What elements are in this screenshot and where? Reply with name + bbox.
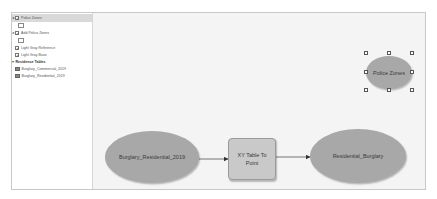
table-icon [15, 67, 20, 71]
selection-handle-sw[interactable] [364, 88, 368, 92]
selection-handle-w[interactable] [364, 70, 368, 74]
node-residential-burglary[interactable]: Residential_Burglary [310, 129, 406, 183]
layer-symbol-swatch [18, 38, 24, 43]
visibility-checkbox[interactable]: ✓ [15, 16, 19, 20]
layer-add-police-zones[interactable]: ◂ ✓ Add Police Zones [12, 29, 92, 37]
selection-handle-s[interactable] [387, 88, 391, 92]
node-burglary-residential-2019[interactable]: Burglary_Residential_2019 [105, 131, 199, 183]
contents-pane: ◂ ✓ Police Zones ◂ ✓ Add Police Zones ✓ … [12, 13, 93, 189]
table-burglary-residential-2019[interactable]: Burglary_Residential_2019 [12, 72, 92, 80]
selection-handle-e[interactable] [410, 70, 414, 74]
visibility-checkbox[interactable]: ✓ [15, 46, 19, 50]
selection-handle-ne[interactable] [410, 51, 414, 55]
node-police-zones[interactable]: Police Zones [366, 56, 412, 89]
tool-xy-table-to-point[interactable]: XY Table To Point [228, 138, 276, 180]
selection-handle-n[interactable] [387, 51, 391, 55]
visibility-checkbox[interactable]: ✓ [15, 53, 19, 57]
table-icon [15, 74, 20, 78]
selection-handle-nw[interactable] [364, 51, 368, 55]
layer-symbol-swatch [18, 23, 24, 28]
layer-police-zones[interactable]: ◂ ✓ Police Zones [12, 14, 92, 22]
selection-handle-se[interactable] [410, 88, 414, 92]
visibility-checkbox[interactable]: ✓ [15, 31, 19, 35]
